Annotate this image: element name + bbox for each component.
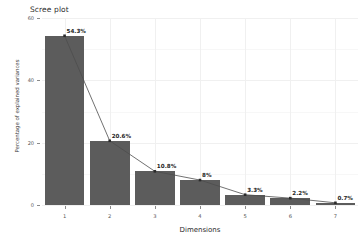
data-label: 2.2% [292, 190, 308, 196]
y-tick-mark [37, 205, 40, 206]
y-tick-label: 40 [12, 77, 34, 83]
x-tick-mark [290, 206, 291, 209]
data-label: 10.8% [157, 163, 176, 169]
x-tick-label: 7 [323, 213, 347, 219]
data-label: 54.3% [67, 28, 86, 34]
y-tick-mark [37, 143, 40, 144]
bar [180, 180, 220, 205]
x-tick-mark [65, 206, 66, 209]
data-label: 0.7% [337, 195, 353, 201]
y-axis-title: Percentage of explained variances [14, 41, 20, 171]
x-tick-mark [245, 206, 246, 209]
gridline-vertical [200, 18, 201, 205]
data-label: 3.3% [247, 187, 263, 193]
gridline-vertical [245, 18, 246, 205]
x-tick-mark [335, 206, 336, 209]
y-tick-label: 60 [12, 15, 34, 21]
gridline-vertical [335, 18, 336, 205]
x-tick-mark [155, 206, 156, 209]
bar [45, 36, 85, 205]
bar [135, 171, 175, 205]
y-tick-mark [37, 18, 40, 19]
bar [270, 198, 310, 205]
y-tick-label: 0 [12, 202, 34, 208]
data-label: 20.6% [112, 133, 131, 139]
x-tick-label: 1 [53, 213, 77, 219]
x-tick-label: 5 [233, 213, 257, 219]
x-tick-label: 3 [143, 213, 167, 219]
x-tick-label: 2 [98, 213, 122, 219]
bar [90, 141, 130, 205]
bar [225, 195, 265, 205]
x-axis-title: Dimensions [42, 226, 358, 234]
x-tick-label: 4 [188, 213, 212, 219]
x-tick-mark [200, 206, 201, 209]
x-tick-mark [110, 206, 111, 209]
x-tick-label: 6 [278, 213, 302, 219]
y-tick-label: 20 [12, 140, 34, 146]
data-label: 8% [202, 172, 212, 178]
scree-plot-figure: Scree plot Percentage of explained varia… [0, 0, 364, 241]
gridline-vertical [290, 18, 291, 205]
y-tick-mark [37, 80, 40, 81]
chart-title: Scree plot [30, 5, 69, 14]
bar [316, 203, 356, 205]
